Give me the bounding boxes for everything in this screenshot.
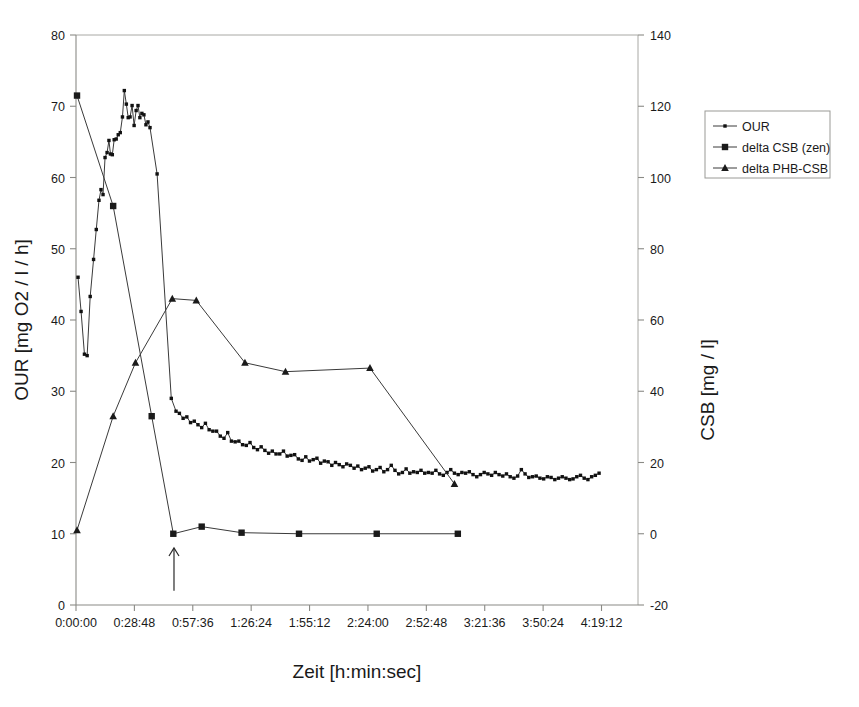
data-point-marker bbox=[125, 102, 128, 105]
data-series-layer bbox=[73, 89, 601, 537]
data-point-marker bbox=[323, 459, 326, 462]
y-axis-right-ticks: -20020406080100120140 bbox=[638, 29, 671, 613]
data-point-marker bbox=[79, 310, 82, 313]
data-point-marker bbox=[419, 469, 422, 472]
data-point-marker bbox=[490, 474, 493, 477]
data-point-marker bbox=[92, 258, 95, 261]
data-point-marker bbox=[237, 439, 240, 442]
data-point-marker bbox=[289, 454, 292, 457]
data-point-marker bbox=[546, 475, 549, 478]
x-tick-label: 2:52:48 bbox=[405, 616, 447, 630]
y-axis-left-title: OUR [mg O2 / l / h] bbox=[11, 239, 32, 401]
y-tick-label-right: 140 bbox=[650, 29, 671, 43]
up-arrow-marker bbox=[169, 548, 179, 591]
y-tick-label-left: 70 bbox=[51, 100, 65, 114]
legend-label: delta CSB (zen) bbox=[742, 141, 830, 155]
data-point-marker bbox=[103, 156, 106, 159]
data-point-marker bbox=[397, 472, 400, 475]
data-point-marker bbox=[367, 465, 370, 468]
y-tick-label-left: 30 bbox=[51, 385, 65, 399]
data-point-marker bbox=[226, 431, 229, 434]
data-point-marker bbox=[97, 199, 100, 202]
data-point-marker bbox=[132, 124, 135, 127]
data-point-marker bbox=[338, 463, 341, 466]
data-point-marker bbox=[360, 468, 363, 471]
data-point-marker bbox=[486, 472, 489, 475]
chart-canvas: 01020304050607080 -20020406080100120140 … bbox=[0, 0, 859, 707]
series-delta-phb-csb bbox=[73, 295, 458, 534]
data-point-marker bbox=[427, 471, 430, 474]
data-point-marker bbox=[330, 464, 333, 467]
data-point-marker bbox=[453, 471, 456, 474]
data-point-marker bbox=[128, 115, 131, 118]
y-tick-label-right: 20 bbox=[650, 457, 664, 471]
data-point-marker bbox=[296, 531, 302, 537]
data-point-marker bbox=[146, 120, 149, 123]
data-point-marker bbox=[393, 469, 396, 472]
data-point-marker bbox=[482, 471, 485, 474]
data-point-marker bbox=[501, 474, 504, 477]
data-point-marker bbox=[263, 449, 266, 452]
data-point-marker bbox=[404, 467, 407, 470]
data-point-marker bbox=[241, 443, 244, 446]
data-point-marker bbox=[319, 462, 322, 465]
data-point-marker bbox=[460, 471, 463, 474]
data-point-marker bbox=[193, 419, 196, 422]
data-point-marker bbox=[282, 449, 285, 452]
data-point-marker bbox=[542, 477, 545, 480]
data-point-marker bbox=[308, 459, 311, 462]
data-point-marker bbox=[85, 354, 88, 357]
data-point-marker bbox=[345, 462, 348, 465]
data-point-marker bbox=[138, 116, 141, 119]
data-point-marker bbox=[557, 476, 560, 479]
data-point-marker bbox=[527, 476, 530, 479]
data-point-marker bbox=[364, 467, 367, 470]
data-point-marker bbox=[464, 471, 467, 474]
data-point-marker bbox=[109, 412, 117, 419]
data-point-marker bbox=[597, 471, 600, 474]
data-point-marker bbox=[285, 454, 288, 457]
data-point-marker bbox=[583, 476, 586, 479]
y-tick-label-right: 80 bbox=[650, 243, 664, 257]
y-tick-label-right: -20 bbox=[650, 599, 668, 613]
x-tick-label: 1:26:24 bbox=[230, 616, 272, 630]
chart-figure: 01020304050607080 -20020406080100120140 … bbox=[0, 0, 859, 707]
data-point-marker bbox=[497, 473, 500, 476]
data-point-marker bbox=[594, 474, 597, 477]
data-point-marker bbox=[509, 475, 512, 478]
data-point-marker bbox=[471, 473, 474, 476]
data-point-marker bbox=[386, 468, 389, 471]
y-tick-label-right: 0 bbox=[650, 528, 657, 542]
data-point-marker bbox=[88, 295, 91, 298]
data-point-marker bbox=[456, 473, 459, 476]
data-point-marker bbox=[189, 421, 192, 424]
y-tick-label-right: 40 bbox=[650, 385, 664, 399]
data-point-marker bbox=[512, 476, 515, 479]
y-tick-label-left: 80 bbox=[51, 29, 65, 43]
x-tick-label: 0:00:00 bbox=[55, 616, 97, 630]
data-point-marker bbox=[185, 415, 188, 418]
y-axis-left-ticks: 01020304050607080 bbox=[51, 29, 76, 613]
data-point-marker bbox=[148, 126, 151, 129]
data-point-marker bbox=[401, 471, 404, 474]
data-point-marker bbox=[356, 464, 359, 467]
x-tick-label: 4:19:12 bbox=[581, 616, 623, 630]
data-point-marker bbox=[252, 446, 255, 449]
y-tick-label-left: 50 bbox=[51, 243, 65, 257]
data-point-marker bbox=[95, 228, 98, 231]
data-point-marker bbox=[200, 426, 203, 429]
y-tick-label-right: 120 bbox=[650, 100, 671, 114]
data-point-marker bbox=[293, 453, 296, 456]
data-point-marker bbox=[341, 465, 344, 468]
x-tick-label: 0:57:36 bbox=[172, 616, 214, 630]
data-point-marker bbox=[371, 469, 374, 472]
data-point-marker bbox=[412, 470, 415, 473]
data-point-marker bbox=[494, 471, 497, 474]
data-point-marker bbox=[423, 471, 426, 474]
data-point-marker bbox=[531, 475, 534, 478]
data-point-marker bbox=[468, 470, 471, 473]
y-tick-label-left: 40 bbox=[51, 314, 65, 328]
data-point-marker bbox=[352, 467, 355, 470]
data-point-marker bbox=[148, 413, 154, 419]
y-tick-label-left: 60 bbox=[51, 172, 65, 186]
